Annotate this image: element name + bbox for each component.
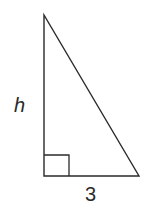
- base-length-label: 3: [85, 184, 96, 204]
- right-triangle: [44, 15, 139, 176]
- height-label: h: [14, 95, 25, 115]
- right-angle-marker: [44, 155, 69, 176]
